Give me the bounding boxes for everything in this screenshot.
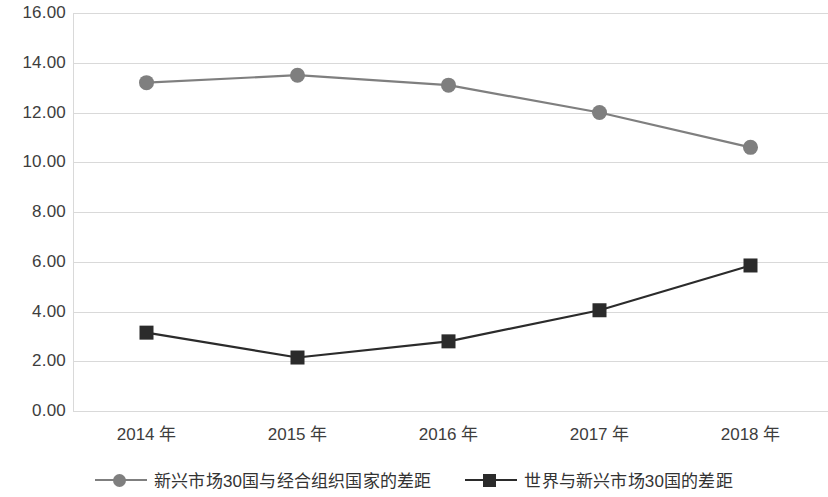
x-axis-tick-label: 2014 年	[117, 420, 177, 445]
data-point-marker[interactable]	[139, 75, 154, 90]
legend-item-series-1[interactable]: 新兴市场30国与经合组织国家的差距	[95, 467, 431, 492]
legend-label-series-1: 新兴市场30国与经合组织国家的差距	[154, 467, 431, 492]
x-axis-tick-label: 2018 年	[721, 420, 781, 445]
data-point-marker[interactable]	[441, 78, 456, 93]
data-point-marker[interactable]	[291, 351, 305, 365]
x-axis-tick-label: 2016 年	[419, 420, 479, 445]
square-marker-icon	[465, 471, 517, 489]
data-point-marker[interactable]	[744, 258, 758, 272]
data-point-marker[interactable]	[442, 334, 456, 348]
x-axis-tick-label: 2017 年	[570, 420, 630, 445]
chart-legend: 新兴市场30国与经合组织国家的差距 世界与新兴市场30国的差距	[0, 462, 828, 497]
data-point-marker[interactable]	[140, 326, 154, 340]
legend-label-series-2: 世界与新兴市场30国的差距	[524, 467, 733, 492]
data-point-marker[interactable]	[593, 303, 607, 317]
circle-marker-icon	[95, 471, 147, 489]
line-chart: 16.0014.0012.0010.008.006.004.002.000.00…	[0, 0, 828, 497]
data-point-marker[interactable]	[592, 105, 607, 120]
data-point-marker[interactable]	[743, 140, 758, 155]
x-axis-labels: 2014 年2015 年2016 年2017 年2018 年	[73, 420, 828, 454]
legend-item-series-2[interactable]: 世界与新兴市场30国的差距	[465, 467, 733, 492]
x-axis-tick-label: 2015 年	[268, 420, 328, 445]
data-point-marker[interactable]	[290, 68, 305, 83]
